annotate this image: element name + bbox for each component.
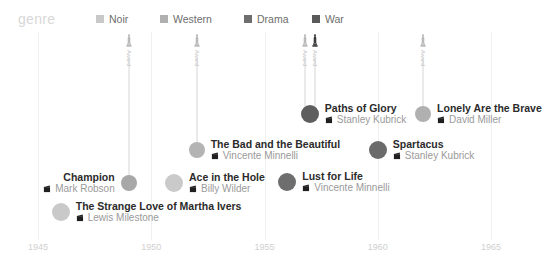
legend-item-drama[interactable]: Drama (244, 13, 289, 25)
film-label: SpartacusStanley Kubrick (393, 138, 474, 162)
clapperboard-icon (302, 183, 311, 192)
film-director: Lewis Milestone (88, 212, 159, 224)
film-director-row: Vincente Minnelli (302, 182, 389, 194)
film-director: David Miller (449, 114, 501, 126)
oscar-statuette-icon (301, 34, 308, 49)
film-label: The Bad and the BeautifulVincente Minnel… (211, 138, 341, 162)
film-title: Champion (43, 171, 114, 183)
legend-title: genre (18, 11, 55, 27)
x-tick-label: 1945 (28, 242, 48, 252)
legend-item-war[interactable]: War (312, 13, 344, 25)
oscar-statuette-icon (193, 34, 200, 49)
legend-item-label: Noir (109, 13, 128, 25)
film-dot[interactable] (189, 142, 205, 158)
film-director: Billy Wilder (201, 183, 250, 195)
clapperboard-icon (211, 151, 220, 160)
film-title: Spartacus (393, 138, 474, 150)
award-marker[interactable]: Award (311, 34, 318, 67)
award-stem (128, 58, 129, 185)
legend-item-noir[interactable]: Noir (96, 13, 128, 25)
film-entry[interactable]: Paths of GloryStanley Kubrick (301, 102, 406, 126)
film-dot[interactable] (52, 203, 70, 221)
film-label: Ace in the HoleBilly Wilder (189, 171, 265, 195)
film-entry[interactable]: The Bad and the BeautifulVincente Minnel… (189, 138, 341, 162)
film-entry[interactable]: Ace in the HoleBilly Wilder (165, 171, 265, 195)
legend-item-western[interactable]: Western (160, 13, 212, 25)
film-dot[interactable] (415, 106, 431, 122)
award-marker[interactable]: Award (420, 34, 427, 67)
timeline-plot: 19451950195519601965 AwardAwardAwardAwar… (0, 32, 541, 265)
award-marker[interactable]: Award (193, 34, 200, 67)
film-label: The Strange Love of Martha IversLewis Mi… (76, 200, 242, 224)
clapperboard-icon (393, 151, 402, 160)
x-tick-label: 1960 (368, 242, 388, 252)
film-title: Lonely Are the Brave (437, 102, 542, 114)
gridline (265, 32, 266, 240)
film-dot[interactable] (369, 141, 387, 159)
film-director: Vincente Minnelli (223, 150, 298, 162)
film-label: Lonely Are the BraveDavid Miller (437, 102, 542, 126)
film-label: Paths of GloryStanley Kubrick (325, 102, 406, 126)
film-director: Stanley Kubrick (405, 150, 474, 162)
film-director-row: Billy Wilder (189, 183, 265, 195)
film-entry[interactable]: SpartacusStanley Kubrick (369, 138, 474, 162)
x-tick-label: 1955 (255, 242, 275, 252)
film-director-row: David Miller (437, 114, 542, 126)
film-director-row: Mark Robson (43, 183, 114, 195)
gridline (378, 32, 379, 240)
clapperboard-icon (76, 213, 85, 222)
legend-item-label: War (325, 13, 344, 25)
film-title: The Bad and the Beautiful (211, 138, 341, 150)
film-title: Paths of Glory (325, 102, 406, 114)
film-label: Lust for LifeVincente Minnelli (302, 170, 389, 194)
film-entry[interactable]: Lust for LifeVincente Minnelli (278, 170, 389, 194)
award-label: Award (194, 50, 200, 67)
film-dot[interactable] (278, 173, 296, 191)
film-director-row: Lewis Milestone (76, 212, 242, 224)
award-label: Award (312, 50, 318, 67)
film-dot[interactable] (165, 174, 183, 192)
film-director-row: Vincente Minnelli (211, 150, 341, 162)
legend-item-label: Drama (257, 13, 289, 25)
film-dot[interactable] (301, 105, 319, 123)
x-tick-label: 1965 (481, 242, 501, 252)
film-entry[interactable]: ChampionMark Robson (0, 171, 137, 195)
award-marker[interactable]: Award (301, 34, 308, 67)
film-entry[interactable]: The Strange Love of Martha IversLewis Mi… (52, 200, 242, 224)
award-label: Award (126, 50, 132, 67)
clapperboard-icon (189, 184, 198, 193)
award-marker[interactable]: Award (125, 34, 132, 67)
award-label: Award (420, 50, 426, 67)
legend-swatch-icon (96, 15, 104, 23)
oscar-statuette-icon (311, 34, 318, 49)
legend-swatch-icon (160, 15, 168, 23)
clapperboard-icon (325, 115, 334, 124)
film-director: Mark Robson (55, 183, 114, 195)
clapperboard-icon (437, 115, 446, 124)
film-title: Lust for Life (302, 170, 389, 182)
oscar-statuette-icon (125, 34, 132, 49)
film-dot[interactable] (121, 175, 137, 191)
film-director-row: Stanley Kubrick (325, 114, 406, 126)
film-entry[interactable]: Lonely Are the BraveDavid Miller (415, 102, 542, 126)
legend-item-label: Western (173, 13, 212, 25)
film-title: The Strange Love of Martha Ivers (76, 200, 242, 212)
x-tick-label: 1950 (141, 242, 161, 252)
film-director: Vincente Minnelli (314, 182, 389, 194)
film-director: Stanley Kubrick (337, 114, 406, 126)
film-label: ChampionMark Robson (43, 171, 114, 195)
legend-swatch-icon (312, 15, 320, 23)
award-label: Award (302, 50, 308, 67)
oscar-statuette-icon (420, 34, 427, 49)
legend: genre NoirWesternDramaWar (0, 0, 541, 32)
gridline (491, 32, 492, 240)
film-director-row: Stanley Kubrick (393, 150, 474, 162)
film-title: Ace in the Hole (189, 171, 265, 183)
gridline (38, 32, 39, 240)
legend-swatch-icon (244, 15, 252, 23)
clapperboard-icon (43, 184, 52, 193)
